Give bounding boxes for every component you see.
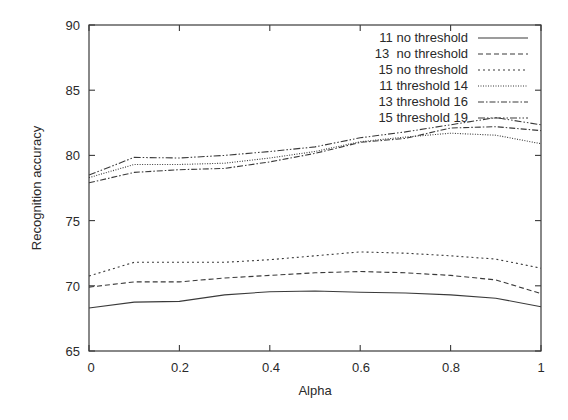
series-line [89,291,541,308]
x-tick-labels: 0 0.2 0.4 0.6 0.8 1 [87,360,544,375]
series-line [89,118,541,175]
line-chart: 65 70 75 80 85 90 0 0.2 0.4 0.6 0.8 1 Al… [0,0,568,420]
series-line [89,272,541,294]
y-tick-label: 85 [66,83,80,98]
legend-swatches [478,38,528,118]
x-tick-label: 0.4 [262,360,280,375]
x-tick-label: 0.8 [442,360,460,375]
legend: 11 no threshold 13 no threshold 15 no th… [375,30,528,125]
legend-label: 13 threshold 16 [378,94,468,109]
y-tick-labels: 65 70 75 80 85 90 [66,18,80,359]
y-tick-label: 70 [66,279,80,294]
y-tick-label: 90 [66,18,80,33]
x-axis-label: Alpha [298,383,332,398]
y-tick-label: 75 [66,214,80,229]
y-tick-label: 80 [66,148,80,163]
y-tick-label: 65 [66,344,80,359]
series-line [89,127,541,183]
x-tick-label: 1 [537,360,544,375]
series-lines [89,118,541,308]
x-tick-label: 0.6 [352,360,370,375]
legend-label: 15 threshold 19 [378,110,468,125]
x-tick-label: 0.2 [171,360,189,375]
y-axis-label: Recognition accuracy [29,125,44,250]
legend-label: 13 no threshold [375,46,468,61]
legend-label: 11 no threshold [379,30,468,45]
legend-label: 15 no threshold [378,62,468,77]
legend-label: 11 threshold 14 [379,78,468,93]
x-tick-label: 0 [87,360,94,375]
